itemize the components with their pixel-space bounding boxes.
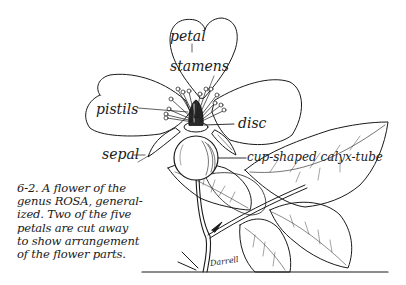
label-calyx-tube: cup-shaped calyx-tube — [247, 151, 383, 163]
caption-line: ized. Two of the five — [17, 208, 177, 221]
figure-caption: 6-2. A flower of the genus ROSA, general… — [17, 182, 177, 261]
label-sepal: sepal — [102, 147, 139, 161]
label-pistils: pistils — [96, 102, 138, 116]
calyx-tube — [174, 136, 218, 180]
caption-line: petals are cut away — [17, 222, 177, 235]
label-petal: petal — [170, 29, 206, 43]
label-disc: disc — [238, 116, 266, 130]
petal-right — [212, 80, 302, 145]
stem — [196, 178, 211, 272]
branch — [208, 185, 307, 238]
caption-line: of the flower parts. — [17, 248, 177, 261]
label-stamens: stamens — [170, 59, 229, 73]
